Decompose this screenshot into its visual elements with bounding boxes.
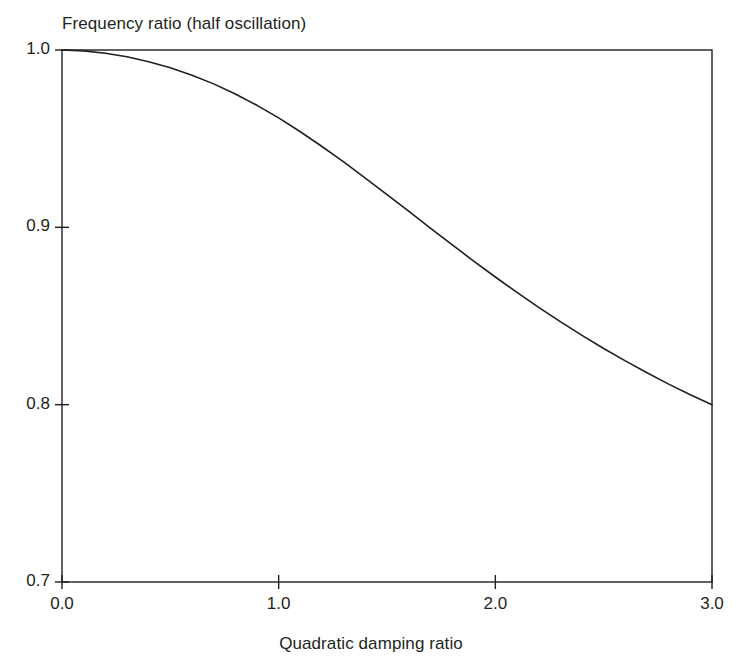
data-series-line [62, 50, 712, 405]
y-tick-label: 0.9 [0, 216, 50, 236]
y-tick-label: 0.7 [0, 571, 50, 591]
x-tick-label: 0.0 [32, 594, 92, 614]
x-tick-label: 2.0 [465, 594, 525, 614]
x-tick-label: 1.0 [249, 594, 309, 614]
chart-figure: Frequency ratio (half oscillation) 0.70.… [0, 0, 742, 671]
y-tick-label: 1.0 [0, 39, 50, 59]
x-tick-label: 3.0 [682, 594, 742, 614]
x-axis-label: Quadratic damping ratio [0, 634, 742, 654]
chart-canvas [0, 0, 742, 671]
y-tick-label: 0.8 [0, 394, 50, 414]
plot-frame [62, 50, 712, 582]
